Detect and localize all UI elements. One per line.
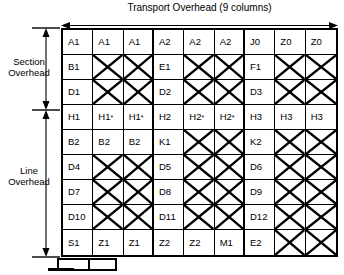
overhead-byte-label: D4: [63, 155, 92, 179]
x-cross-icon: [184, 80, 213, 104]
x-cross-icon: [275, 180, 304, 204]
overhead-cell-unused: [93, 205, 123, 230]
overhead-cell-unused: [306, 130, 336, 155]
x-cross-icon: [215, 205, 243, 229]
x-cross-icon: [275, 130, 304, 154]
overhead-byte-label: H1*: [124, 105, 152, 129]
overhead-cell-unused: [215, 205, 245, 230]
overhead-byte-label: Z2: [184, 230, 213, 255]
x-cross-icon: [306, 180, 336, 204]
overhead-cell: D5: [154, 155, 184, 180]
x-cross-icon: [306, 230, 336, 255]
asterisk-marker: *: [141, 114, 144, 121]
section-overhead-label-line1: Section: [13, 56, 45, 67]
overhead-byte-label: Z2: [154, 230, 183, 255]
transport-overhead-span-arrow: [61, 16, 338, 25]
asterisk-marker: *: [232, 114, 235, 121]
overhead-cell: D3: [245, 80, 275, 105]
overhead-byte-label: D8: [154, 180, 183, 204]
x-cross-icon: [124, 80, 152, 104]
overhead-byte-label: D5: [154, 155, 183, 179]
overhead-byte-label: Z1: [124, 230, 152, 255]
overhead-byte-label: H3: [306, 105, 336, 129]
overhead-byte-label: A1: [63, 30, 92, 54]
x-cross-icon: [215, 155, 243, 179]
overhead-cell: K2: [245, 130, 275, 155]
overhead-byte-label: A2: [154, 30, 183, 54]
overhead-cell-unused: [184, 55, 214, 80]
overhead-byte-label: D2: [154, 80, 183, 104]
overhead-byte-label: D9: [245, 180, 274, 204]
grid-row: D10D11D12: [63, 205, 336, 230]
overhead-byte-label: D1: [63, 80, 92, 104]
line-overhead-label: Line Overhead: [0, 165, 58, 187]
grid-row: B2B2B2K1K2: [63, 130, 336, 155]
overhead-cell-unused: [306, 230, 336, 255]
line-overhead-label-line2: Overhead: [8, 176, 50, 187]
overhead-byte-label: K1: [154, 130, 183, 154]
section-overhead-label: Section Overhead: [0, 56, 58, 78]
overhead-cell-unused: [124, 180, 154, 205]
x-cross-icon: [184, 155, 213, 179]
overhead-byte-label: H3: [245, 105, 274, 129]
x-cross-icon: [184, 130, 213, 154]
overhead-cell: Z1: [124, 230, 154, 255]
legend-underline: [48, 268, 74, 271]
x-cross-icon: [184, 205, 213, 229]
overhead-cell: S1: [63, 230, 93, 255]
x-cross-icon: [275, 80, 304, 104]
overhead-cell: E1: [154, 55, 184, 80]
grid-row: D1D2D3: [63, 80, 336, 105]
overhead-cell: D9: [245, 180, 275, 205]
diagram-root: Transport Overhead (9 columns) Se: [0, 0, 344, 275]
legend-swatch-divider: [88, 260, 90, 269]
overhead-cell: H1*: [93, 105, 123, 130]
overhead-byte-label: H1*: [93, 105, 122, 129]
overhead-cell: H2*: [215, 105, 245, 130]
overhead-cell-unused: [215, 180, 245, 205]
overhead-byte-label: F1: [245, 55, 274, 79]
x-cross-icon: [184, 180, 213, 204]
grid-row: S1Z1Z1Z2Z2M1E2: [63, 230, 336, 255]
overhead-cell: A1: [63, 30, 93, 55]
overhead-cell: B2: [63, 130, 93, 155]
overhead-cell: H2: [154, 105, 184, 130]
overhead-cell-unused: [184, 130, 214, 155]
x-cross-icon: [124, 155, 152, 179]
overhead-cell-unused: [275, 55, 305, 80]
overhead-cell: H1: [63, 105, 93, 130]
x-cross-icon: [275, 55, 304, 79]
overhead-cell: Z2: [154, 230, 184, 255]
overhead-byte-label: Z0: [275, 30, 304, 54]
x-cross-icon: [124, 205, 152, 229]
x-cross-icon: [215, 55, 243, 79]
x-cross-icon: [306, 80, 336, 104]
overhead-cell-unused: [184, 155, 214, 180]
x-cross-icon: [275, 205, 304, 229]
overhead-cell-unused: [124, 55, 154, 80]
overhead-cell: A2: [184, 30, 214, 55]
x-cross-icon: [93, 155, 122, 179]
overhead-cell: M1: [215, 230, 245, 255]
grid-row: D7D8D9: [63, 180, 336, 205]
overhead-cell: D2: [154, 80, 184, 105]
overhead-cell-unused: [184, 180, 214, 205]
overhead-byte-label: B1: [63, 55, 92, 79]
overhead-cell-unused: [215, 55, 245, 80]
overhead-byte-label: E1: [154, 55, 183, 79]
x-cross-icon: [93, 80, 122, 104]
overhead-cell-unused: [306, 55, 336, 80]
overhead-cell-unused: [215, 80, 245, 105]
overhead-cell-unused: [93, 180, 123, 205]
grid-row: D4D5D6: [63, 155, 336, 180]
grid-row: H1H1*H1*H2H2*H2*H3H3H3: [63, 105, 336, 130]
x-cross-icon: [275, 230, 304, 255]
overhead-cell: H3: [306, 105, 336, 130]
overhead-cell: H2*: [184, 105, 214, 130]
overhead-byte-label: H3: [275, 105, 304, 129]
overhead-cell-unused: [306, 205, 336, 230]
overhead-byte-label: S1: [63, 230, 92, 255]
asterisk-marker: *: [110, 114, 113, 121]
overhead-cell: D7: [63, 180, 93, 205]
overhead-cell: D1: [63, 80, 93, 105]
